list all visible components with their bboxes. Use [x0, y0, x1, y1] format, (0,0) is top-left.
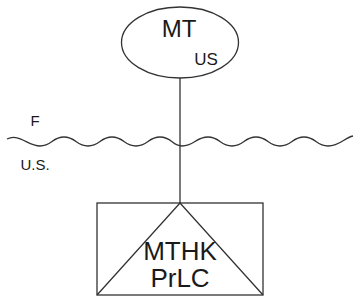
diagram-canvas: MT US F U.S. MTHK PrLC [0, 0, 357, 306]
boundary-label-above: F [30, 112, 39, 129]
top-node: MT US [122, 7, 239, 78]
top-node-subtitle: US [194, 50, 218, 69]
boundary-label-below: U.S. [20, 156, 49, 173]
bottom-node: MTHK PrLC [97, 203, 263, 295]
bottom-node-line1: MTHK [143, 236, 217, 266]
top-node-title: MT [162, 15, 197, 42]
bottom-node-line2: PrLC [150, 263, 209, 293]
